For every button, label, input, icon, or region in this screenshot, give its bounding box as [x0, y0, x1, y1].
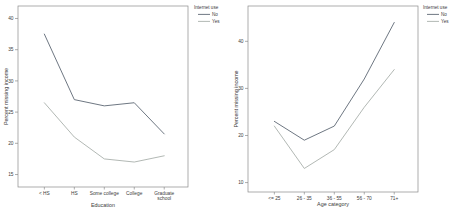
- age-category-chart: 10203040<= 2526 - 3536 - 5556 - 7071+Per…: [233, 5, 449, 207]
- legend-title: Internet use: [423, 5, 448, 10]
- y-tick-label: 10: [238, 180, 244, 185]
- legend: Internet useNoYes: [423, 5, 449, 24]
- x-axis-label: Education: [91, 202, 115, 208]
- series-line-yes: [274, 70, 394, 169]
- legend-title: Internet use: [194, 5, 219, 10]
- charts-svg: 152025303540< HSHSSome collegeCollegeGra…: [0, 0, 452, 212]
- legend-item-label: No: [441, 12, 447, 17]
- x-tick-label: College: [126, 191, 143, 196]
- y-axis-label: Percent missing income: [3, 68, 9, 125]
- y-tick-label: 25: [8, 110, 14, 115]
- x-tick-label: Graduateschool: [154, 191, 174, 201]
- legend: Internet useNoYes: [194, 5, 220, 24]
- x-tick-label: < HS: [39, 191, 50, 196]
- series-line-no: [274, 22, 394, 140]
- means-plots-figure: 152025303540< HSHSSome collegeCollegeGra…: [0, 0, 452, 212]
- y-tick-label: 20: [238, 133, 244, 138]
- y-tick-label: 15: [8, 172, 14, 177]
- plot-frame: [248, 6, 418, 192]
- series-line-yes: [44, 103, 164, 162]
- series-line-no: [44, 34, 164, 134]
- y-tick-label: 30: [238, 86, 244, 91]
- y-tick-label: 20: [8, 141, 14, 146]
- legend-item-label: Yes: [441, 19, 449, 24]
- x-tick-label: Some college: [90, 191, 119, 196]
- y-tick-label: 40: [238, 39, 244, 44]
- x-tick-label: 71+: [390, 196, 398, 201]
- legend-item-label: Yes: [212, 19, 220, 24]
- x-tick-label: 56 - 70: [357, 196, 372, 201]
- x-tick-label: HS: [71, 191, 78, 196]
- x-axis-label: Age category: [317, 201, 349, 207]
- plot-frame: [18, 6, 188, 187]
- x-tick-label: 26 - 35: [297, 196, 312, 201]
- y-tick-label: 30: [8, 79, 14, 84]
- y-tick-label: 40: [8, 16, 14, 21]
- x-tick-label: <= 25: [268, 196, 281, 201]
- y-tick-label: 35: [8, 47, 14, 52]
- legend-item-label: No: [212, 12, 218, 17]
- education-chart: 152025303540< HSHSSome collegeCollegeGra…: [3, 5, 220, 208]
- y-axis-label: Percent missing income: [233, 70, 239, 127]
